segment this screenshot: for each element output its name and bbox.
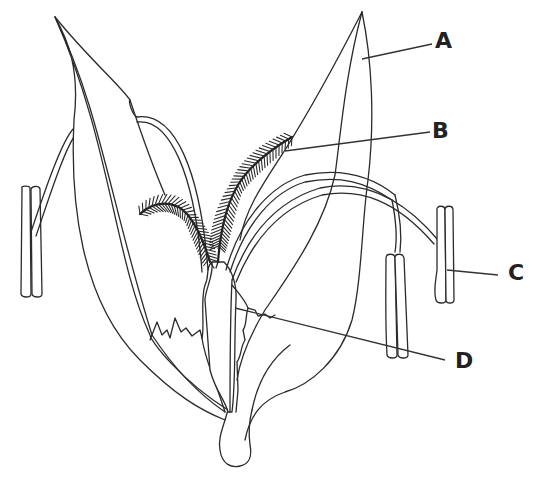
anther-c (435, 206, 454, 303)
leader-b (285, 132, 430, 151)
leader-d (235, 308, 445, 360)
leader-c (447, 270, 498, 275)
leader-lines (235, 44, 498, 360)
floret-diagram: A B C D (0, 0, 538, 486)
left-anther (21, 186, 42, 297)
right-glume (237, 12, 372, 440)
leader-a (362, 44, 432, 59)
label-d: D (455, 350, 473, 372)
left-stigma (139, 195, 217, 266)
label-b: B (432, 120, 449, 142)
label-c: C (508, 262, 524, 284)
anther-d (386, 254, 408, 358)
lodicule (230, 280, 275, 412)
label-a: A (435, 30, 452, 52)
right-stigma (210, 133, 292, 262)
